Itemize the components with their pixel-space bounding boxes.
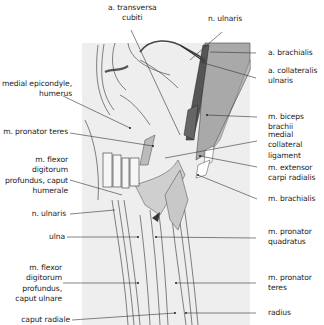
label-a-brachialis: a. brachialis <box>268 48 313 58</box>
label-m-pronator-teres-left: m. pronator teres <box>0 127 68 137</box>
label-m-brachialis: m. brachialis <box>268 194 315 204</box>
label-m-pronator-quadratus: m. pronator quadratus <box>268 227 312 248</box>
label-radius: radius <box>268 308 291 318</box>
label-n-ulnaris-top: n. ulnaris <box>208 14 242 24</box>
anatomy-figure: a. transversa cubiti n. ulnaris medial e… <box>0 0 324 325</box>
label-m-pronator-teres-right: m. pronator teres <box>268 273 312 294</box>
label-medial-epicondyle: medial epicondyle, humerus <box>0 79 72 100</box>
label-m-fdp-caput-ulnare: m. flexor digitorum profundus, caput uln… <box>0 263 62 305</box>
label-n-ulnaris-left: n. ulnaris <box>0 209 66 219</box>
label-a-collateralis-ulnaris: a. collateralis ulnaris <box>268 66 317 87</box>
label-caput-radiale: caput radiale <box>0 315 70 325</box>
label-ulna: ulna <box>0 232 65 242</box>
label-medial-collateral-ligament: medial collateral ligament <box>268 130 324 161</box>
label-m-fdp-caput-humerale: m. flexor digitorum profundus, caput hum… <box>0 155 68 197</box>
label-a-transversa-cubiti: a. transversa cubiti <box>108 3 157 24</box>
label-m-extensor-carpi-radialis: m. extensor carpi radialis <box>268 163 315 184</box>
